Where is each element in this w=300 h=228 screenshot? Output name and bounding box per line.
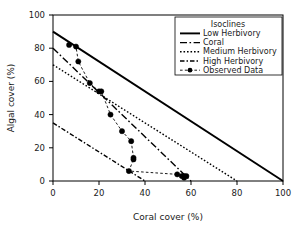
x-tick-label: 100 <box>275 188 291 198</box>
legend-swatch-marker <box>188 68 193 73</box>
data-point <box>129 139 134 144</box>
y-tick-label: 0 <box>40 176 45 186</box>
y-axis-title: Algal cover (%) <box>6 64 16 133</box>
y-tick-label: 20 <box>34 143 45 153</box>
legend-item-label: Low Herbivory <box>203 29 261 38</box>
data-point <box>119 129 124 134</box>
legend-title: Isoclines <box>211 20 245 29</box>
data-point <box>73 44 78 49</box>
x-tick-label: 80 <box>232 188 243 198</box>
data-point <box>184 173 189 178</box>
coral-algal-isocline-chart: 020406080100 020406080100 Coral cover (%… <box>0 0 300 228</box>
data-point <box>76 59 81 64</box>
y-tick-label: 80 <box>34 43 45 53</box>
data-point <box>87 80 92 85</box>
legend-item-label: Coral <box>203 38 224 47</box>
data-point <box>67 42 72 47</box>
legend-item-label: Observed Data <box>203 66 263 75</box>
x-tick-label: 60 <box>186 188 197 198</box>
data-point <box>108 112 113 117</box>
x-tick-label: 0 <box>50 188 55 198</box>
y-tick-label: 40 <box>34 110 45 120</box>
y-tick-label: 100 <box>29 10 45 20</box>
x-axis-title: Coral cover (%) <box>133 212 203 222</box>
data-point <box>126 168 131 173</box>
chart-legend: Isoclines Low HerbivoryCoralMedium Herbi… <box>175 17 282 75</box>
data-point <box>99 89 104 94</box>
x-tick-label: 40 <box>140 188 151 198</box>
data-point <box>131 157 136 162</box>
x-tick-label: 20 <box>94 188 105 198</box>
legend-item-label: Medium Herbivory <box>203 47 277 56</box>
y-tick-label: 60 <box>34 76 45 86</box>
chart-figure: 020406080100 020406080100 Coral cover (%… <box>0 0 300 228</box>
legend-item-label: High Herbivory <box>203 57 263 66</box>
